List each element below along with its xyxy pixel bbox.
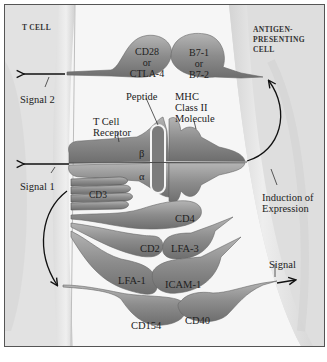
- mhc-label-line2: Class II: [175, 102, 207, 113]
- induction-label-line2: Expression: [262, 203, 309, 214]
- lfa1-label: LFA-1: [118, 275, 146, 286]
- apc-label-line1: ANTIGEN-: [253, 25, 293, 35]
- signal-label: Signal: [269, 259, 296, 270]
- induction-label-line1: Induction of: [262, 192, 314, 203]
- cd40-label: CD40: [185, 315, 210, 326]
- signal1-label: Signal 1: [20, 181, 55, 192]
- cd154-label: CD154: [131, 320, 161, 331]
- lfa3-label: LFA-3: [171, 243, 199, 254]
- icam1-label: ICAM-1: [165, 279, 201, 290]
- alpha-chain-label: α: [139, 171, 145, 182]
- apc-label-line3: CELL: [253, 45, 275, 55]
- b7-label: B7-1 or B7-2: [182, 47, 216, 80]
- cd2-label: CD2: [140, 243, 160, 254]
- tcr-label-line2: Receptor: [93, 127, 131, 138]
- t-cell-label: T CELL: [22, 23, 51, 33]
- beta-chain-label: β: [139, 148, 144, 159]
- mhc-label-line3: Molecule: [175, 113, 215, 124]
- cd3-label: CD3: [89, 190, 107, 201]
- tcr-label-line1: T Cell: [93, 116, 119, 127]
- cd4-label: CD4: [175, 213, 195, 224]
- peptide-label: Peptide: [126, 91, 158, 102]
- apc-label-line2: PRESENTING: [253, 35, 305, 45]
- diagram-frame: T CELL ANTIGEN- PRESENTING CELL CD28 or …: [4, 4, 325, 347]
- cd28-label: CD28 or CTLA-4: [125, 46, 169, 79]
- mhc-label-line1: MHC: [175, 91, 199, 102]
- signal2-label: Signal 2: [20, 94, 55, 105]
